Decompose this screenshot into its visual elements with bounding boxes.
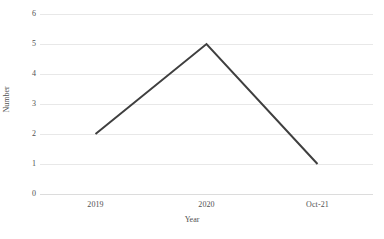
x-tick-label-2019: 2019 xyxy=(66,200,126,209)
y-tick-label-2: 2 xyxy=(10,130,36,138)
y-tick-label-0: 0 xyxy=(10,190,36,198)
y-tick-label-4: 4 xyxy=(10,70,36,78)
series-line-number xyxy=(40,14,373,194)
line-chart: 0123456 Number 20192020Oct-21 Year xyxy=(0,0,384,239)
y-axis-title: Number xyxy=(2,75,11,125)
gridline-0 xyxy=(40,194,373,195)
plot-area xyxy=(40,14,373,194)
x-tick-label-2020: 2020 xyxy=(177,200,237,209)
y-tick-label-5: 5 xyxy=(10,40,36,48)
y-tick-label-1: 1 xyxy=(10,160,36,168)
y-tick-label-3: 3 xyxy=(10,100,36,108)
x-axis-title: Year xyxy=(0,215,384,224)
y-tick-label-6: 6 xyxy=(10,10,36,18)
x-tick-label-Oct-21: Oct-21 xyxy=(288,200,348,209)
series-polyline xyxy=(96,44,318,164)
